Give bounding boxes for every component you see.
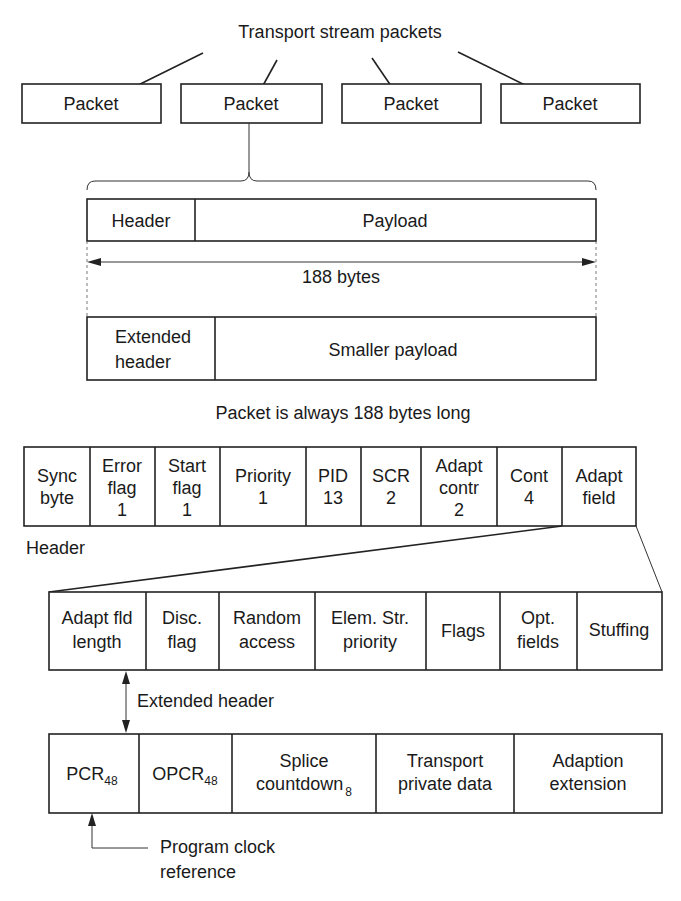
packet-row: Packet Packet Packet Packet <box>22 84 640 123</box>
extended-header-line1: Extended <box>115 327 191 347</box>
packet-caption: Packet is always 188 bytes long <box>215 403 470 423</box>
extended-header-line2: header <box>115 352 171 372</box>
svg-text:Transport: Transport <box>407 751 483 771</box>
svg-text:SCR: SCR <box>372 466 410 486</box>
header-label: Header <box>26 538 85 558</box>
packet-structure-row: Header Payload <box>87 199 596 241</box>
arrow-up-icon <box>88 813 96 826</box>
packet-label: Packet <box>542 94 597 114</box>
svg-text:Adapt fld: Adapt fld <box>61 608 132 628</box>
svg-text:PID: PID <box>318 466 348 486</box>
header-cell: Header <box>111 211 170 231</box>
svg-text:Splice: Splice <box>279 751 328 771</box>
header-fields-row: Sync byte Error flag 1 Start flag 1 Prio… <box>24 447 636 526</box>
diagram-title: Transport stream packets <box>238 22 441 42</box>
packet-label: Packet <box>383 94 438 114</box>
field-flags: Flags <box>441 621 485 641</box>
svg-text:Priority: Priority <box>235 466 291 486</box>
svg-text:contr: contr <box>439 478 479 498</box>
field-stuffing: Stuffing <box>589 620 650 640</box>
optional-fields-row: PCR48 OPCR48 Splice countdown8 Transport… <box>49 734 662 813</box>
svg-text:Adapt: Adapt <box>435 456 482 476</box>
svg-text:Error: Error <box>102 456 142 476</box>
svg-text:Elem. Str.: Elem. Str. <box>331 608 409 628</box>
svg-text:fields: fields <box>517 632 559 652</box>
svg-text:2: 2 <box>386 488 396 508</box>
svg-text:priority: priority <box>343 632 397 652</box>
svg-text:4: 4 <box>524 488 534 508</box>
svg-text:1: 1 <box>117 500 127 520</box>
arrow-up-icon <box>122 671 130 684</box>
svg-text:Start: Start <box>168 456 206 476</box>
svg-text:Adapt: Adapt <box>575 466 622 486</box>
arrow-down-icon <box>122 720 130 733</box>
packet-box: Packet <box>501 84 640 123</box>
svg-text:Sync: Sync <box>37 466 77 486</box>
svg-text:Random: Random <box>233 608 301 628</box>
svg-text:2: 2 <box>454 500 464 520</box>
adapt-fields-row: Adapt fld length Disc. flag Random acces… <box>49 592 662 670</box>
svg-text:1: 1 <box>182 500 192 520</box>
svg-text:flag: flag <box>167 632 196 652</box>
extended-header-pointer: Extended header <box>122 671 274 733</box>
svg-text:field: field <box>582 488 615 508</box>
svg-text:private data: private data <box>398 774 493 794</box>
arrow-right-icon <box>582 258 596 266</box>
brace <box>87 123 596 190</box>
svg-text:extension: extension <box>549 774 626 794</box>
svg-text:access: access <box>239 632 295 652</box>
packet-label: Packet <box>223 94 278 114</box>
size-label: 188 bytes <box>302 267 380 287</box>
svg-text:flag: flag <box>107 478 136 498</box>
svg-text:flag: flag <box>172 478 201 498</box>
svg-text:13: 13 <box>323 488 343 508</box>
extended-header-label: Extended header <box>137 691 274 711</box>
transport-stream-diagram: Transport stream packets Packet Packet P… <box>0 0 681 901</box>
svg-text:Adaption: Adaption <box>552 751 623 771</box>
svg-text:Disc.: Disc. <box>162 608 202 628</box>
svg-text:Cont: Cont <box>510 466 548 486</box>
pcr-note-line1: Program clock <box>160 837 276 857</box>
pcr-pointer: Program clock reference <box>88 813 276 882</box>
packet-label: Packet <box>63 94 118 114</box>
packet-box: Packet <box>181 84 322 123</box>
extended-structure-row: Extended header Smaller payload <box>87 317 596 380</box>
size-dimension: 188 bytes <box>87 241 596 317</box>
arrow-left-icon <box>87 258 101 266</box>
title-arrows <box>112 52 551 102</box>
svg-text:Flags: Flags <box>441 621 485 641</box>
smaller-payload-cell: Smaller payload <box>328 340 457 360</box>
expansion-lines <box>49 526 662 592</box>
svg-text:1: 1 <box>258 488 268 508</box>
payload-cell: Payload <box>362 211 427 231</box>
svg-text:Stuffing: Stuffing <box>589 620 650 640</box>
svg-text:byte: byte <box>40 488 74 508</box>
packet-box: Packet <box>22 84 161 123</box>
pcr-note-line2: reference <box>160 862 236 882</box>
packet-box: Packet <box>342 84 481 123</box>
svg-text:Opt.: Opt. <box>521 608 555 628</box>
svg-text:length: length <box>72 632 121 652</box>
